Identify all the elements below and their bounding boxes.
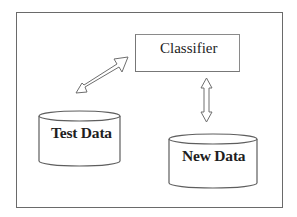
double-arrow-icon [76, 57, 128, 93]
classifier-label: Classifier [160, 40, 218, 57]
diagram-canvas: Classifier Test Data New Data [0, 0, 297, 217]
new-data-label: New Data [182, 147, 245, 165]
classifier-newdata-arrow [201, 78, 212, 122]
test-classifier-arrow [76, 57, 128, 93]
diagram-shapes [0, 0, 297, 217]
vertical-double-arrow-icon [201, 78, 212, 122]
test-data-label: Test Data [51, 124, 112, 142]
